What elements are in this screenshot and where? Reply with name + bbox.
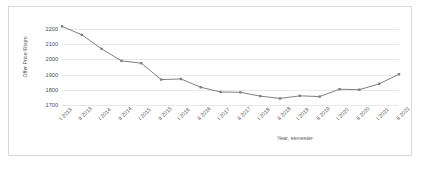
data-point-marker bbox=[239, 91, 241, 93]
data-point-marker bbox=[120, 60, 122, 62]
y-axis-tick-label: 2000 bbox=[46, 56, 58, 62]
data-point-marker bbox=[160, 78, 162, 80]
data-point-marker bbox=[299, 95, 301, 97]
data-point-marker bbox=[81, 34, 83, 36]
data-point-marker bbox=[279, 97, 281, 99]
data-point-marker bbox=[200, 86, 202, 88]
data-point-marker bbox=[338, 88, 340, 90]
y-axis-tick-label: 2100 bbox=[46, 41, 58, 47]
line-series bbox=[62, 21, 399, 113]
y-axis-tick-label: 1800 bbox=[46, 87, 58, 93]
chart-container: Offer Price €/sqm 1700180019002000210022… bbox=[0, 0, 422, 169]
chart-frame: Offer Price €/sqm 1700180019002000210022… bbox=[8, 6, 412, 156]
data-point-marker bbox=[100, 48, 102, 50]
plot-area: 170018001900200021002200 bbox=[62, 21, 399, 113]
y-axis-tick-label: 1900 bbox=[46, 72, 58, 78]
data-point-marker bbox=[61, 25, 63, 27]
data-point-marker bbox=[180, 78, 182, 80]
y-axis-tick-label: 1700 bbox=[46, 102, 58, 108]
series-line bbox=[62, 26, 399, 98]
x-axis-title: Year, semester bbox=[277, 135, 313, 141]
data-point-marker bbox=[219, 91, 221, 93]
data-point-marker bbox=[319, 95, 321, 97]
data-point-marker bbox=[398, 73, 400, 75]
y-axis-tick-label: 2200 bbox=[46, 26, 58, 32]
data-point-marker bbox=[378, 83, 380, 85]
data-point-marker bbox=[358, 88, 360, 90]
data-point-marker bbox=[259, 95, 261, 97]
y-axis-title: Offer Price €/sqm bbox=[22, 20, 28, 94]
x-axis-tick-label: I 2013 bbox=[58, 106, 73, 121]
data-point-marker bbox=[140, 62, 142, 64]
